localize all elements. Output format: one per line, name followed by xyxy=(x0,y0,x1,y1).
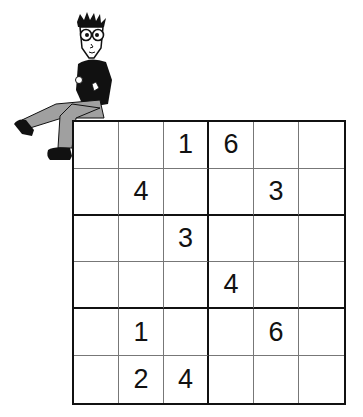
sudoku-cell[interactable] xyxy=(74,169,119,216)
sudoku-cell[interactable] xyxy=(164,262,209,309)
sudoku-cell: 6 xyxy=(209,122,254,169)
sudoku-cell: 1 xyxy=(164,122,209,169)
sudoku-cell[interactable] xyxy=(299,309,344,356)
sudoku-cell[interactable] xyxy=(254,262,299,309)
sudoku-cell[interactable] xyxy=(74,356,119,403)
sudoku-cell: 4 xyxy=(209,262,254,309)
sudoku-cell[interactable] xyxy=(74,122,119,169)
sudoku-cell[interactable] xyxy=(74,216,119,263)
sudoku-cell[interactable] xyxy=(299,262,344,309)
sudoku-cell[interactable] xyxy=(119,216,164,263)
sudoku-cell[interactable] xyxy=(119,262,164,309)
sudoku-cell: 2 xyxy=(119,356,164,403)
sudoku-cell[interactable] xyxy=(164,169,209,216)
sudoku-cell[interactable] xyxy=(209,309,254,356)
sudoku-board: 1643341624 xyxy=(72,120,346,405)
sudoku-cell[interactable] xyxy=(299,216,344,263)
sudoku-cell: 6 xyxy=(254,309,299,356)
hair-icon xyxy=(77,12,106,27)
sudoku-cell[interactable] xyxy=(119,122,164,169)
sudoku-cell: 4 xyxy=(119,169,164,216)
sudoku-cell[interactable] xyxy=(209,216,254,263)
sudoku-cell[interactable] xyxy=(74,309,119,356)
sudoku-cell[interactable] xyxy=(254,122,299,169)
sudoku-cell[interactable] xyxy=(254,216,299,263)
sudoku-cell[interactable] xyxy=(74,262,119,309)
sudoku-cell: 4 xyxy=(164,356,209,403)
sudoku-cell[interactable] xyxy=(209,356,254,403)
sudoku-cell: 3 xyxy=(254,169,299,216)
sudoku-cell: 3 xyxy=(164,216,209,263)
sudoku-cell[interactable] xyxy=(209,169,254,216)
sudoku-cell: 1 xyxy=(119,309,164,356)
sudoku-cell[interactable] xyxy=(164,309,209,356)
sudoku-cell[interactable] xyxy=(254,356,299,403)
sudoku-cell[interactable] xyxy=(299,169,344,216)
sudoku-cell[interactable] xyxy=(299,356,344,403)
sudoku-cell[interactable] xyxy=(299,122,344,169)
